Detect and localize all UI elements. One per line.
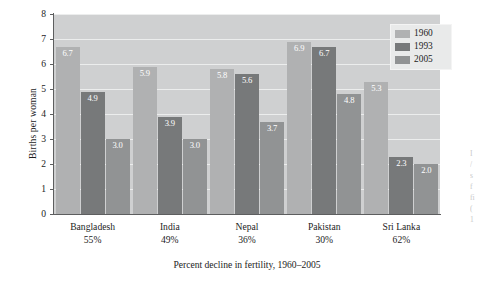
legend: 1960 1993 2005 — [390, 24, 452, 70]
bar-india-1960: 5.9 — [133, 67, 157, 215]
bar-nepal-1960: 5.8 — [210, 69, 234, 214]
y-tick-label: 4 — [32, 109, 46, 119]
y-tick-mark — [50, 139, 54, 140]
category-percent-decline: 30% — [286, 234, 363, 247]
y-tick-label: 3 — [32, 134, 46, 144]
bar-nepal-1993: 5.6 — [235, 74, 259, 214]
grid-line — [54, 14, 440, 15]
bar-value-label: 4.9 — [81, 94, 105, 103]
y-tick-mark — [50, 114, 54, 115]
legend-item-2005: 2005 — [395, 54, 447, 65]
bar-value-label: 5.6 — [235, 76, 259, 85]
bar-value-label: 4.8 — [337, 96, 361, 105]
y-tick-label: 0 — [32, 209, 46, 219]
y-tick-mark — [50, 164, 54, 165]
legend-swatch-icon-1960 — [395, 30, 410, 38]
category-name: India — [131, 221, 208, 234]
y-tick-label: 5 — [32, 84, 46, 94]
y-tick-mark — [50, 14, 54, 15]
page-margin-bleed-text: I/sffi(1 — [470, 148, 492, 225]
category-percent-decline: 49% — [131, 234, 208, 247]
y-tick-mark — [50, 64, 54, 65]
bar-sri-lanka-1993: 2.3 — [389, 157, 413, 215]
bleed-line: I — [470, 148, 492, 159]
y-tick-label: 7 — [32, 34, 46, 44]
x-axis-title: Percent decline in fertility, 1960–2005 — [54, 259, 440, 270]
bar-nepal-2005: 3.7 — [260, 122, 284, 215]
y-tick-mark — [50, 189, 54, 190]
category-label-india: India49% — [131, 221, 208, 247]
category-label-nepal: Nepal36% — [208, 221, 285, 247]
category-label-bangladesh: Bangladesh55% — [54, 221, 131, 247]
legend-swatch-icon-1993 — [395, 43, 410, 51]
bar-india-1993: 3.9 — [158, 117, 182, 215]
legend-label-2005: 2005 — [414, 55, 433, 64]
bar-pakistan-1960: 6.9 — [287, 42, 311, 215]
bleed-line: 1 — [470, 214, 492, 225]
bar-pakistan-1993: 6.7 — [312, 47, 336, 215]
bar-value-label: 5.9 — [133, 69, 157, 78]
bar-bangladesh-2005: 3.0 — [106, 139, 130, 214]
category-percent-decline: 36% — [208, 234, 285, 247]
legend-label-1960: 1960 — [414, 29, 433, 38]
y-tick-label: 8 — [32, 9, 46, 19]
bar-value-label: 3.9 — [158, 119, 182, 128]
bar-value-label: 2.3 — [389, 159, 413, 168]
bar-value-label: 6.7 — [56, 49, 80, 58]
category-percent-decline: 55% — [54, 234, 131, 247]
category-label-sri-lanka: Sri Lanka62% — [363, 221, 440, 247]
category-name: Nepal — [208, 221, 285, 234]
bar-value-label: 3.0 — [106, 141, 130, 150]
grid-line — [54, 39, 440, 40]
bleed-line: fi — [470, 192, 492, 203]
grid-line — [54, 64, 440, 65]
bleed-line: s — [470, 170, 492, 181]
category-name: Bangladesh — [54, 221, 131, 234]
y-tick-label: 6 — [32, 59, 46, 69]
y-tick-label: 1 — [32, 184, 46, 194]
bleed-line: f — [470, 181, 492, 192]
bar-value-label: 2.0 — [414, 166, 438, 175]
bar-bangladesh-1960: 6.7 — [56, 47, 80, 215]
y-tick-mark — [50, 39, 54, 40]
y-tick-mark — [50, 89, 54, 90]
fertility-bar-chart: Births per woman 012345678 6.74.93.05.93… — [0, 0, 492, 286]
legend-item-1960: 1960 — [395, 28, 447, 39]
bar-value-label: 5.8 — [210, 71, 234, 80]
bar-value-label: 3.7 — [260, 124, 284, 133]
legend-item-1993: 1993 — [395, 41, 447, 52]
bar-india-2005: 3.0 — [183, 139, 207, 214]
bar-value-label: 3.0 — [183, 141, 207, 150]
legend-swatch-icon-2005 — [395, 56, 410, 64]
bar-value-label: 6.9 — [287, 44, 311, 53]
category-label-pakistan: Pakistan30% — [286, 221, 363, 247]
bleed-line: ( — [470, 203, 492, 214]
legend-label-1993: 1993 — [414, 42, 433, 51]
bar-sri-lanka-1960: 5.3 — [364, 82, 388, 215]
bar-value-label: 6.7 — [312, 49, 336, 58]
x-axis-line — [53, 214, 441, 215]
bleed-line: / — [470, 159, 492, 170]
y-tick-mark — [50, 214, 54, 215]
bar-bangladesh-1993: 4.9 — [81, 92, 105, 215]
bar-sri-lanka-2005: 2.0 — [414, 164, 438, 214]
category-percent-decline: 62% — [363, 234, 440, 247]
category-name: Pakistan — [286, 221, 363, 234]
bar-value-label: 5.3 — [364, 84, 388, 93]
y-tick-label: 2 — [32, 159, 46, 169]
bar-pakistan-2005: 4.8 — [337, 94, 361, 214]
category-name: Sri Lanka — [363, 221, 440, 234]
